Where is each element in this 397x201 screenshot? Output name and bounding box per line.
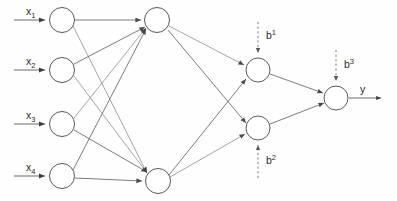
edge-h1a-h2b: [168, 30, 246, 123]
bias-label-b1: b1: [266, 28, 276, 41]
edge-x2-h1b: [74, 76, 147, 173]
edges-hidden1-to-hidden2: [168, 26, 246, 177]
input-label-x1: x1: [26, 5, 35, 20]
edges-input-to-hidden1: [73, 20, 147, 181]
hidden-layer-2-nodes-group: [246, 58, 270, 140]
edges-hidden2-to-output: [270, 74, 324, 124]
input-label-x3: x3: [26, 109, 35, 124]
hidden1-node-top[interactable]: [145, 8, 170, 33]
bias-label-b2: b2: [266, 153, 276, 166]
edge-h1b-h2b: [170, 134, 245, 177]
input-node-x2[interactable]: [50, 58, 75, 83]
edge-h2a-out: [270, 74, 323, 93]
edge-h1b-h2a: [169, 79, 246, 175]
input-label-x2: x2: [26, 55, 35, 70]
hidden-layer-1-nodes-group: [145, 8, 171, 194]
input-arrows-group: [14, 20, 45, 176]
edge-x4-h1b: [75, 178, 142, 181]
nn-canvas: x1 x2 x3 x4 b1 b2 b3 y: [0, 0, 397, 201]
output-label-y: y: [360, 83, 366, 95]
output-node-group: [324, 86, 348, 110]
input-node-x3[interactable]: [50, 112, 75, 137]
input-node-x1[interactable]: [50, 8, 75, 33]
input-nodes-group: [50, 8, 75, 189]
bias-label-b3: b3: [344, 57, 354, 70]
hidden2-node-bottom[interactable]: [246, 116, 270, 140]
edge-h2b-out: [270, 103, 324, 124]
edge-h1a-h2a: [169, 26, 244, 65]
hidden2-node-top[interactable]: [246, 58, 270, 82]
input-labels-group: x1 x2 x3 x4: [26, 5, 35, 176]
hidden1-node-bottom[interactable]: [146, 169, 171, 194]
neural-network-diagram: x1 x2 x3 x4 b1 b2 b3 y: [0, 0, 397, 201]
edge-x2-h1a: [74, 27, 145, 64]
input-label-x4: x4: [26, 161, 35, 176]
edge-x3-h1a: [74, 28, 146, 118]
output-node[interactable]: [324, 86, 348, 110]
input-node-x4[interactable]: [50, 164, 75, 189]
